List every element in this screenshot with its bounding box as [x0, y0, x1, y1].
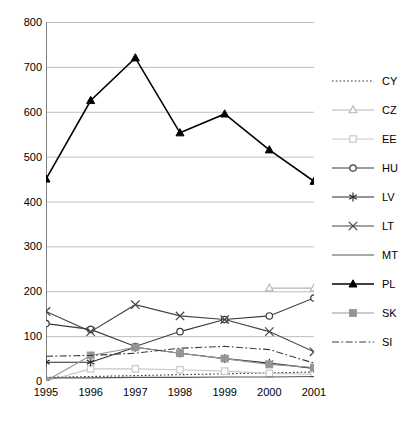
x-axis-tick-label: 1996: [71, 386, 111, 398]
legend-sample-cz: [330, 103, 376, 117]
data-point-marker: [177, 350, 184, 357]
series-ee: [46, 366, 314, 381]
data-point-marker: [131, 301, 139, 309]
series-line: [46, 298, 314, 346]
legend-item-hu[interactable]: HU: [330, 153, 416, 182]
legend-label: LT: [382, 220, 394, 232]
y-axis-tick-label: 500: [2, 152, 42, 162]
y-axis-tick-label: 800: [2, 17, 42, 27]
x-axis-tick-label: 1997: [115, 386, 155, 398]
legend-label: CZ: [382, 104, 397, 116]
legend-item-cz[interactable]: CZ: [330, 95, 416, 124]
plot-svg: [46, 22, 314, 381]
legend-item-cy[interactable]: CY: [330, 66, 416, 95]
legend-item-pl[interactable]: PL: [330, 269, 416, 298]
data-point-marker: [350, 309, 357, 316]
legend-item-lt[interactable]: LT: [330, 211, 416, 240]
legend-sample-si: [330, 335, 376, 349]
series-pl: [46, 54, 314, 185]
y-axis-tick-label: 700: [2, 62, 42, 72]
legend-label: EE: [382, 133, 397, 145]
legend-label: SK: [382, 307, 397, 319]
legend-label: MT: [382, 249, 398, 261]
legend-sample-hu: [330, 161, 376, 175]
legend-item-mt[interactable]: MT: [330, 240, 416, 269]
data-point-marker: [266, 313, 272, 319]
data-point-marker: [266, 284, 274, 291]
data-point-marker: [46, 320, 49, 326]
data-point-marker: [132, 366, 138, 372]
legend-label: LV: [382, 191, 395, 203]
legend-sample-mt: [330, 248, 376, 262]
legend-label: SI: [382, 336, 392, 348]
x-axis-tick-label: 2000: [249, 386, 289, 398]
data-point-marker: [177, 328, 183, 334]
y-axis-tick-label: 100: [2, 331, 42, 341]
legend-item-ee[interactable]: EE: [330, 124, 416, 153]
series-hu: [46, 295, 314, 350]
legend-item-lv[interactable]: LV: [330, 182, 416, 211]
data-point-marker: [311, 295, 314, 301]
data-point-marker: [132, 344, 139, 351]
x-axis-tick-label: 1999: [205, 386, 245, 398]
legend-sample-lv: [330, 190, 376, 204]
data-point-marker: [177, 367, 183, 373]
x-axis-tick-label: 1998: [160, 386, 200, 398]
x-axis: 1995199619971998199920002001: [46, 386, 314, 406]
data-point-marker: [221, 368, 227, 374]
data-point-marker: [310, 348, 314, 356]
legend-sample-sk: [330, 306, 376, 320]
data-point-marker: [350, 135, 356, 141]
y-axis-tick-label: 200: [2, 286, 42, 296]
series-line: [46, 58, 314, 181]
series-mt: [46, 377, 314, 378]
legend-label: HU: [382, 162, 398, 174]
plot-area: [46, 22, 314, 381]
data-point-marker: [87, 366, 93, 372]
legend-item-sk[interactable]: SK: [330, 298, 416, 327]
data-point-marker: [221, 110, 229, 117]
data-point-marker: [311, 364, 314, 371]
series-line: [46, 377, 314, 378]
y-axis: 0100200300400500600700800: [0, 22, 42, 381]
data-point-marker: [266, 361, 273, 368]
data-point-marker: [350, 164, 356, 170]
legend-item-si[interactable]: SI: [330, 327, 416, 356]
gridlines: [46, 23, 314, 382]
y-axis-tick-label: 0: [2, 376, 42, 386]
legend-sample-cy: [330, 74, 376, 88]
data-point-marker: [266, 370, 272, 376]
data-point-marker: [221, 355, 228, 362]
line-chart: 0100200300400500600700800 19951996199719…: [0, 0, 419, 430]
data-point-marker: [265, 327, 273, 335]
y-axis-tick-label: 300: [2, 241, 42, 251]
data-point-marker: [131, 54, 139, 61]
legend-sample-lt: [330, 219, 376, 233]
chart-legend: CYCZEEHULVLTMTPLSKSI: [330, 66, 416, 356]
legend-sample-pl: [330, 277, 376, 291]
data-point-marker: [46, 378, 49, 381]
legend-sample-ee: [330, 132, 376, 146]
legend-label: PL: [382, 278, 395, 290]
legend-label: CY: [382, 75, 397, 87]
y-axis-tick-label: 400: [2, 197, 42, 207]
series-cz: [266, 284, 314, 291]
data-point-marker: [310, 284, 314, 291]
data-point-marker: [349, 106, 357, 113]
x-axis-tick-label: 1995: [26, 386, 66, 398]
x-axis-tick-label: 2001: [294, 386, 334, 398]
y-axis-tick-label: 600: [2, 107, 42, 117]
